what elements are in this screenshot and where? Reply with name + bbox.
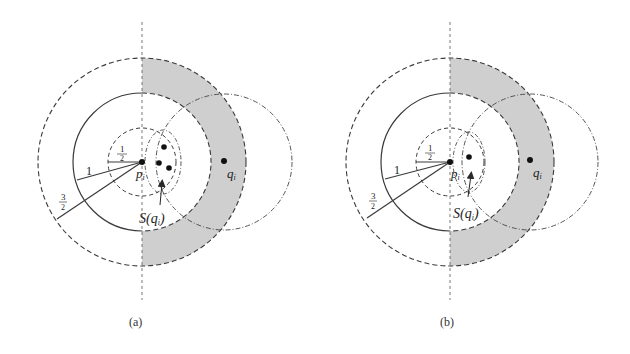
label-set: S(qi) — [139, 211, 165, 227]
panel-b: 1 2 1 3 2 pi S(qi) qi (b) — [346, 22, 598, 329]
label-p: pi — [450, 166, 460, 182]
label-half-den: 2 — [120, 154, 124, 163]
panel-a: 1 2 1 3 2 pi S(qi) qi (a) — [38, 22, 292, 329]
radius-three-half-segment — [367, 162, 450, 218]
set-dashdot-ellipse — [453, 132, 485, 192]
label-three-half-den: 2 — [61, 203, 65, 212]
label-three-half-num: 3 — [371, 191, 376, 201]
center-point-p — [139, 159, 145, 165]
label-one: 1 — [86, 164, 92, 178]
label-half-num: 1 — [120, 144, 125, 154]
label-p: pi — [135, 166, 145, 182]
label-three-half-num: 3 — [61, 192, 66, 202]
shaded-annulus-region — [450, 58, 554, 266]
label-one: 1 — [394, 163, 400, 177]
center-point-p — [447, 159, 453, 165]
set-point — [166, 165, 172, 171]
query-point-q — [527, 157, 533, 163]
set-point — [156, 160, 162, 166]
set-point — [161, 144, 167, 150]
label-half-num: 1 — [428, 143, 433, 153]
set-point — [466, 154, 472, 160]
caption-b: (b) — [440, 315, 454, 329]
label-three-half-den: 2 — [371, 202, 375, 211]
label-half-den: 2 — [428, 153, 432, 162]
caption-a: (a) — [129, 315, 142, 329]
radius-three-half-segment — [57, 162, 142, 219]
query-point-q — [221, 158, 227, 164]
geometry-figure: 1 2 1 3 2 pi S(qi) qi (a) 1 — [0, 0, 630, 354]
label-set: S(qi) — [453, 206, 479, 222]
